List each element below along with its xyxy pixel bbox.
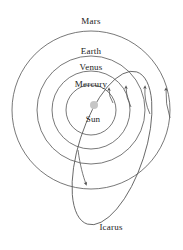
label-mars: Mars [81,16,100,26]
label-icarus: Icarus [99,222,122,232]
label-earth: Earth [81,46,102,56]
sun-marker [90,101,98,109]
direction-arrow-venus [126,87,131,107]
orbit-diagram: Mars Earth Venus Mercury Sun Icarus [0,0,183,250]
orbit-earth [37,56,145,164]
orbit-mercury [66,85,116,135]
direction-arrow-mercury [109,89,113,103]
orbit-svg [0,0,183,250]
orbit-icarus [56,62,168,235]
direction-arrow-icarus [78,150,86,184]
label-sun: Sun [86,114,101,124]
label-mercury: Mercury [75,79,107,89]
direction-arrow-earth [145,87,150,114]
label-venus: Venus [80,62,103,72]
